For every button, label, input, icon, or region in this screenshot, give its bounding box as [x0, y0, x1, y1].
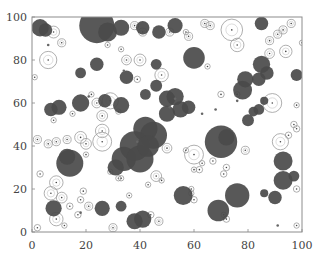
outline-circle — [52, 138, 60, 146]
x-tick-label: 20 — [79, 239, 93, 252]
outline-circle — [109, 224, 117, 232]
filled-circle — [225, 183, 249, 207]
outline-circle — [285, 132, 291, 138]
filled-circle — [208, 200, 230, 222]
small-point — [136, 140, 139, 143]
small-point — [168, 106, 171, 109]
x-tick-label: 0 — [29, 239, 36, 252]
outline-circle — [44, 140, 52, 148]
filled-circle — [113, 97, 129, 113]
outline-circle — [118, 47, 123, 52]
outline-circle — [80, 188, 86, 194]
outline-circle — [145, 182, 150, 187]
outline-circle — [50, 176, 64, 190]
outline-circle — [221, 19, 243, 41]
outline-circle — [279, 26, 287, 34]
outline-circle — [196, 166, 202, 172]
outline-circle — [70, 111, 75, 116]
outline-circle — [230, 38, 244, 52]
filled-circle — [218, 129, 234, 145]
outline-circle — [83, 152, 88, 157]
small-point — [47, 44, 50, 47]
y-tick-label: 0 — [20, 226, 27, 239]
outline-circle — [218, 91, 224, 97]
filled-circle — [59, 149, 75, 165]
outline-circle — [34, 224, 40, 230]
filled-circle — [151, 59, 162, 70]
filled-circle — [90, 58, 104, 72]
outline-circle — [37, 171, 43, 177]
x-tick-label: 60 — [187, 239, 201, 252]
filled-circle — [98, 94, 112, 108]
outline-circle — [201, 19, 209, 27]
filled-circle — [260, 189, 268, 197]
outline-circle — [134, 54, 146, 66]
small-point — [276, 224, 279, 227]
outline-circle — [85, 202, 93, 210]
y-tick-label: 100 — [6, 11, 27, 24]
filled-circle — [260, 97, 268, 105]
x-tick-label: 80 — [241, 239, 255, 252]
filled-circle — [150, 80, 162, 92]
filled-circle — [174, 186, 193, 205]
outline-circle — [93, 132, 112, 151]
filled-circle — [108, 159, 124, 175]
y-tick-label: 60 — [13, 97, 27, 110]
outline-circle — [272, 134, 288, 150]
filled-circle — [39, 23, 53, 37]
filled-circle — [140, 89, 151, 100]
filled-circle — [159, 106, 175, 122]
outline-circle — [287, 19, 295, 27]
filled-circle — [182, 101, 196, 115]
filled-circle — [116, 201, 127, 212]
outline-circle — [95, 124, 109, 138]
outline-circle — [77, 197, 83, 203]
outline-circle — [58, 39, 66, 47]
outline-circle — [151, 171, 162, 182]
outline-circle — [105, 42, 110, 47]
y-tick-label: 40 — [13, 140, 27, 153]
small-point — [214, 108, 217, 111]
filled-circle — [51, 100, 66, 115]
outline-circle — [205, 64, 210, 69]
filled-circle — [72, 94, 89, 111]
outline-circle — [280, 45, 292, 57]
outline-circle — [155, 217, 163, 225]
filled-circle — [75, 68, 86, 79]
outline-circle — [122, 55, 132, 65]
outline-circle — [274, 30, 282, 38]
small-point — [123, 69, 126, 72]
small-point — [174, 97, 177, 100]
outline-circle — [265, 49, 275, 59]
plot-frame — [32, 17, 302, 232]
outline-circle — [206, 22, 214, 30]
outline-circle — [56, 192, 67, 203]
outline-circle — [32, 75, 37, 80]
filled-circle — [134, 210, 151, 227]
outline-circle — [162, 143, 172, 153]
filled-circle — [274, 152, 293, 171]
outline-circle — [44, 187, 58, 201]
x-tick-label: 40 — [133, 239, 147, 252]
outline-circle — [67, 203, 73, 209]
filled-circle — [291, 69, 303, 81]
x-tick-label: 100 — [292, 239, 313, 252]
y-axis: 020406080100 — [6, 11, 35, 239]
outline-circle — [51, 118, 56, 123]
outline-circle — [40, 51, 57, 68]
outline-circle — [62, 223, 67, 228]
small-point — [79, 211, 82, 214]
filled-circle — [120, 70, 134, 84]
outline-circle — [223, 164, 229, 170]
outline-circle — [63, 136, 71, 144]
outline-circle — [199, 161, 204, 166]
filled-circle — [183, 47, 205, 69]
outline-circle — [118, 176, 123, 181]
outline-circle — [127, 193, 132, 198]
bubble-scatter-chart: 020406080100 020406080100 — [0, 0, 321, 258]
y-tick-label: 20 — [13, 183, 27, 196]
filled-circle — [152, 25, 166, 39]
small-point — [201, 112, 204, 115]
filled-circle — [95, 201, 110, 216]
filled-circle — [252, 73, 266, 87]
